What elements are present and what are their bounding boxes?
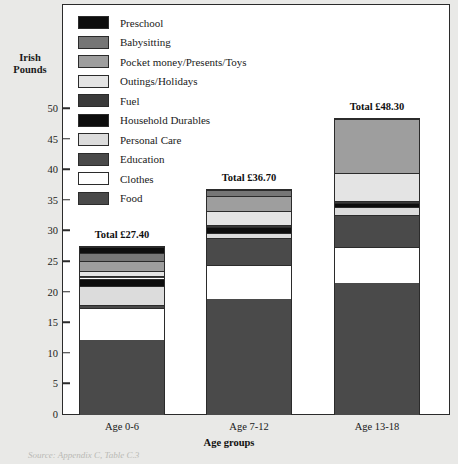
segment-food[interactable] xyxy=(80,340,164,415)
y-axis-title-line1: Irish xyxy=(19,52,41,63)
legend-item-outings-holidays[interactable]: Outings/Holidays xyxy=(78,72,247,92)
legend-swatch-icon xyxy=(78,172,109,185)
segment-personal-care[interactable] xyxy=(207,233,291,239)
legend-item-preschool[interactable]: Preschool xyxy=(78,13,247,33)
y-tick-label: 45 xyxy=(0,133,58,144)
legend-item-pocket-money-presents-toys[interactable]: Pocket money/Presents/Toys xyxy=(78,52,247,72)
y-tick-mark xyxy=(63,107,70,109)
legend-swatch-icon xyxy=(78,16,109,29)
y-tick-label: 10 xyxy=(0,347,58,358)
legend-item-food[interactable]: Food xyxy=(78,189,247,209)
legend-item-clothes[interactable]: Clothes xyxy=(78,169,247,189)
chart-legend: PreschoolBabysittingPocket money/Present… xyxy=(78,13,247,208)
segment-fuel[interactable] xyxy=(80,276,164,278)
y-tick-label: 35 xyxy=(0,194,58,205)
legend-swatch-icon xyxy=(78,114,109,127)
stacked-bar-chart: Irish Pounds 05101520253035404550 Total … xyxy=(0,0,458,464)
legend-swatch-icon xyxy=(78,153,109,166)
legend-item-education[interactable]: Education xyxy=(78,150,247,170)
legend-label: Clothes xyxy=(120,173,154,185)
bar-total-label: Total £48.30 xyxy=(350,101,404,112)
y-tick-label: 20 xyxy=(0,286,58,297)
y-tick-label: 25 xyxy=(0,256,58,267)
segment-personal-care[interactable] xyxy=(80,286,164,305)
segment-education[interactable] xyxy=(335,215,419,247)
y-tick-mark xyxy=(63,291,70,293)
segment-outings-holidays[interactable] xyxy=(80,271,164,276)
segment-household-durables[interactable] xyxy=(80,279,164,286)
segment-personal-care[interactable] xyxy=(335,207,419,215)
legend-label: Personal Care xyxy=(120,134,181,146)
legend-swatch-icon xyxy=(78,192,109,205)
legend-swatch-icon xyxy=(78,133,109,146)
x-tick-label-3: Age 13-18 xyxy=(355,421,400,432)
segment-preschool[interactable] xyxy=(80,247,164,253)
legend-label: Preschool xyxy=(120,17,163,29)
y-tick-mark xyxy=(63,199,70,201)
segment-food[interactable] xyxy=(207,299,291,415)
y-tick-label: 0 xyxy=(0,409,58,420)
segment-fuel[interactable] xyxy=(335,201,419,203)
segment-clothes[interactable] xyxy=(207,265,291,299)
y-axis-title: Irish Pounds xyxy=(2,52,58,76)
x-tick-label-1: Age 0-6 xyxy=(105,421,139,432)
y-tick-label: 30 xyxy=(0,225,58,236)
bar-age-0-6[interactable] xyxy=(79,246,165,414)
segment-babysitting[interactable] xyxy=(80,253,164,261)
bar-age-7-12[interactable] xyxy=(206,189,292,414)
y-tick-mark xyxy=(63,168,70,170)
legend-swatch-icon xyxy=(78,94,109,107)
legend-item-household-durables[interactable]: Household Durables xyxy=(78,111,247,131)
y-tick-mark xyxy=(63,321,70,323)
y-tick-mark xyxy=(63,352,70,354)
bar-total-label: Total £27.40 xyxy=(95,229,149,240)
y-tick-label: 40 xyxy=(0,164,58,175)
segment-food[interactable] xyxy=(335,283,419,415)
y-axis-title-line2: Pounds xyxy=(13,64,46,75)
segment-household-durables[interactable] xyxy=(207,227,291,233)
legend-label: Household Durables xyxy=(120,114,210,126)
y-tick-label: 50 xyxy=(0,103,58,114)
y-tick-label: 15 xyxy=(0,317,58,328)
segment-education[interactable] xyxy=(207,238,291,265)
segment-clothes[interactable] xyxy=(80,308,164,339)
segment-outings-holidays[interactable] xyxy=(207,211,291,226)
legend-label: Education xyxy=(120,153,165,165)
segment-pocket-money-presents-toys[interactable] xyxy=(80,261,164,271)
source-caption: Source: Appendix C, Table C.3 xyxy=(28,450,139,460)
x-tick-label-2: Age 7-12 xyxy=(229,421,268,432)
segment-clothes[interactable] xyxy=(335,247,419,284)
segment-outings-holidays[interactable] xyxy=(335,173,419,201)
legend-swatch-icon xyxy=(78,55,109,68)
segment-fuel[interactable] xyxy=(207,225,291,227)
y-tick-mark xyxy=(63,383,70,385)
segment-education[interactable] xyxy=(80,305,164,309)
legend-label: Pocket money/Presents/Toys xyxy=(120,56,247,68)
y-tick-mark xyxy=(63,260,70,262)
legend-item-babysitting[interactable]: Babysitting xyxy=(78,33,247,53)
legend-label: Outings/Holidays xyxy=(120,75,198,87)
legend-swatch-icon xyxy=(78,75,109,88)
legend-label: Babysitting xyxy=(120,36,171,48)
y-tick-label: 5 xyxy=(0,378,58,389)
legend-label: Fuel xyxy=(120,95,140,107)
x-axis-title: Age groups xyxy=(0,437,458,448)
legend-item-personal-care[interactable]: Personal Care xyxy=(78,130,247,150)
bar-age-13-18[interactable] xyxy=(334,118,420,414)
y-tick-mark xyxy=(63,138,70,140)
segment-household-durables[interactable] xyxy=(335,203,419,207)
legend-label: Food xyxy=(120,192,143,204)
legend-item-fuel[interactable]: Fuel xyxy=(78,91,247,111)
y-tick-mark xyxy=(63,230,70,232)
legend-swatch-icon xyxy=(78,36,109,49)
segment-pocket-money-presents-toys[interactable] xyxy=(335,119,419,172)
